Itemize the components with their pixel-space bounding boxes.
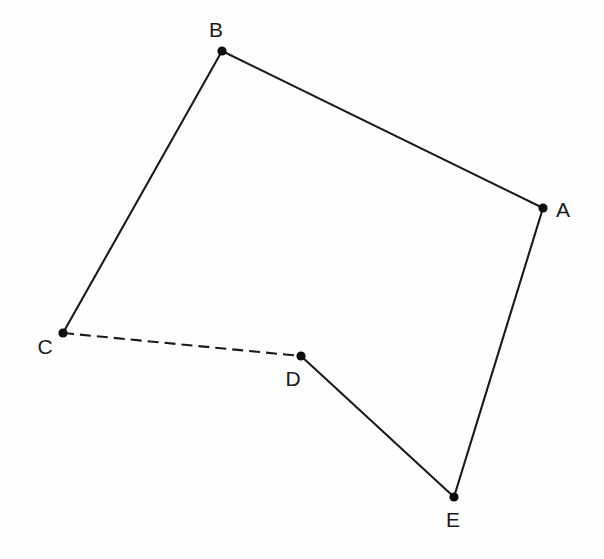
geometry-figure-canvas: A B C D E: [0, 0, 604, 559]
segment-ea: [454, 208, 543, 497]
vertex-label-group: A B C D E: [37, 18, 570, 531]
vertex-label-c: C: [37, 335, 52, 358]
vertex-dot-b: [217, 46, 226, 55]
segment-ab: [222, 51, 543, 208]
vertex-label-e: E: [446, 508, 460, 531]
segment-bc: [63, 51, 222, 333]
vertex-label-a: A: [556, 198, 570, 221]
vertex-dot-c: [58, 328, 67, 337]
vertex-dot-d: [296, 351, 305, 360]
segment-de: [301, 356, 454, 497]
vertex-dot-e: [449, 492, 458, 501]
geometry-figure-svg: A B C D E: [0, 0, 604, 559]
vertex-label-d: D: [285, 367, 300, 390]
vertex-dot-a: [538, 203, 547, 212]
edge-group: [63, 51, 543, 497]
segment-cd-dashed: [63, 333, 301, 356]
vertex-label-b: B: [209, 18, 223, 41]
